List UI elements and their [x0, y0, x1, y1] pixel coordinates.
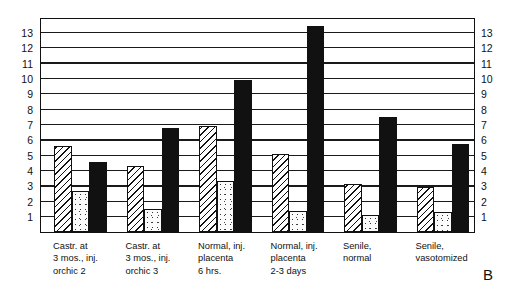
y-tick-right-9: 9	[481, 89, 511, 100]
y-tick-right-2: 2	[481, 197, 511, 208]
bar-group-6	[404, 19, 477, 232]
y-tick-right-6: 6	[481, 135, 511, 146]
bar-group4-dotted	[289, 211, 307, 233]
y-tick-right-12: 12	[481, 43, 511, 54]
bar-group3-solid	[234, 80, 252, 232]
bar-group2-solid	[162, 128, 180, 232]
bar-group-1	[41, 19, 114, 232]
bar-group6-solid	[452, 144, 470, 232]
bar-group-4	[259, 19, 332, 232]
bar-group6-hatched	[417, 187, 435, 232]
y-tick-right-13: 13	[481, 28, 511, 39]
bar-group2-hatched	[127, 166, 145, 232]
bar-group-3	[186, 19, 259, 232]
bar-group6-dotted	[434, 212, 452, 232]
bar-group4-hatched	[272, 154, 290, 232]
category-label-1: Castr. at 3 mos., inj. orchic 2	[53, 240, 98, 277]
y-tick-right-10: 10	[481, 74, 511, 85]
category-label-2: Castr. at 3 mos., inj. orchic 3	[126, 240, 171, 277]
y-tick-right-3: 3	[481, 181, 511, 192]
category-label-5: Senile, normal	[343, 240, 371, 265]
y-tick-left-8: 8	[3, 105, 33, 116]
bar-group3-dotted	[217, 181, 235, 232]
y-tick-left-1: 1	[3, 212, 33, 223]
bar-group5-hatched	[344, 184, 362, 232]
y-tick-left-5: 5	[3, 151, 33, 162]
y-tick-left-13: 13	[3, 28, 33, 39]
bar-group3-hatched	[199, 126, 217, 232]
y-tick-left-12: 12	[3, 43, 33, 54]
panel-letter: B	[483, 266, 493, 283]
y-tick-left-10: 10	[3, 74, 33, 85]
bar-group1-solid	[89, 162, 107, 232]
y-tick-left-6: 6	[3, 135, 33, 146]
y-tick-left-2: 2	[3, 197, 33, 208]
y-tick-right-7: 7	[481, 120, 511, 131]
bar-group1-dotted	[72, 191, 90, 232]
bar-group-5	[331, 19, 404, 232]
category-label-4: Normal, inj. placenta 2-3 days	[271, 240, 318, 277]
y-tick-right-1: 1	[481, 212, 511, 223]
bar-group5-solid	[379, 117, 397, 232]
chart-plot-area	[40, 18, 475, 233]
y-tick-left-7: 7	[3, 120, 33, 131]
bar-group1-hatched	[54, 146, 72, 232]
y-tick-right-8: 8	[481, 105, 511, 116]
figure-panel-b: 13121110987654321 13121110987654321 Cast…	[0, 0, 515, 291]
y-tick-left-3: 3	[3, 181, 33, 192]
y-tick-right-11: 11	[481, 59, 511, 70]
y-tick-left-11: 11	[3, 59, 33, 70]
bar-group4-solid	[307, 26, 325, 232]
bar-group-2	[114, 19, 187, 232]
y-tick-right-5: 5	[481, 151, 511, 162]
y-tick-right-4: 4	[481, 166, 511, 177]
category-label-6: Senile, vasotomized	[416, 240, 468, 265]
bar-group5-dotted	[362, 215, 380, 232]
y-tick-left-9: 9	[3, 89, 33, 100]
category-label-3: Normal, inj. placenta 6 hrs.	[198, 240, 245, 277]
bar-group2-dotted	[144, 209, 162, 232]
y-tick-left-4: 4	[3, 166, 33, 177]
